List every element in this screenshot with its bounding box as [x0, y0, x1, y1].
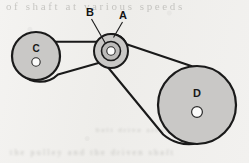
callout-b-label: B: [86, 6, 94, 18]
pulley-c-label: C: [32, 43, 39, 54]
belt-pulley-figure: of shaft at various speeds belt drive ar…: [0, 0, 249, 163]
pulley-d-body: [158, 66, 236, 144]
pulley-d-label: D: [193, 87, 201, 99]
pulley-c: C: [12, 32, 60, 80]
pulley-d: D: [158, 66, 236, 144]
pulley-c-body: [12, 32, 60, 80]
pulley-c-hub-hole: [32, 58, 40, 66]
pulley-ab-hub-hole: [107, 47, 115, 55]
callout-a-label: A: [119, 9, 127, 21]
diagram-canvas: D C B A: [0, 0, 249, 163]
compound-pulley-ab: [94, 34, 128, 68]
pulley-d-hub-hole: [192, 107, 203, 118]
